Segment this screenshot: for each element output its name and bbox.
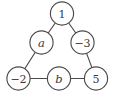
node-label-mid-left: a bbox=[38, 36, 45, 50]
graph-canvas: 1a−3−2b5 bbox=[0, 0, 116, 101]
graph-node-mid-right[interactable]: −3 bbox=[71, 31, 94, 54]
graph-figure: 1a−3−2b5 bbox=[0, 0, 116, 101]
node-label-mid-right: −3 bbox=[74, 37, 90, 50]
node-label-bottom-mid: b bbox=[55, 72, 62, 86]
graph-node-bottom-right[interactable]: 5 bbox=[84, 67, 107, 90]
graph-node-top[interactable]: 1 bbox=[50, 2, 73, 25]
graph-node-mid-left[interactable]: a bbox=[30, 31, 53, 54]
node-label-top: 1 bbox=[59, 8, 66, 21]
node-label-bottom-left: −2 bbox=[10, 73, 26, 86]
edge-top-midleft bbox=[48, 23, 55, 33]
edge-top-midright bbox=[69, 23, 76, 33]
graph-node-bottom-mid[interactable]: b bbox=[47, 67, 70, 90]
nodes-layer: 1a−3−2b5 bbox=[7, 2, 108, 90]
node-label-bottom-right: 5 bbox=[93, 73, 100, 86]
edge-midleft-bottomleft bbox=[25, 52, 36, 68]
edge-midright-bottomright bbox=[87, 53, 92, 67]
graph-node-bottom-left[interactable]: −2 bbox=[7, 67, 30, 90]
